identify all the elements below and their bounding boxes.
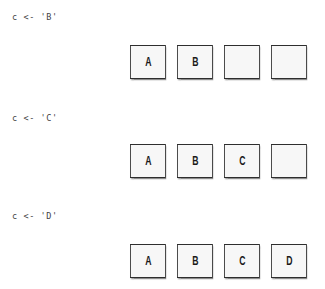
vector-cell: B [177,244,213,278]
vector-cells: A B C D [127,244,310,278]
vector-cell: A [130,45,166,79]
vector-cells: A B [127,45,310,79]
cell-value: D [286,254,292,268]
vector-cell: B [177,144,213,178]
vector-cell [271,144,307,178]
cell-value: B [192,154,198,168]
vector-cell [224,45,260,79]
cell-value: A [145,55,151,69]
cell-value: B [192,55,198,69]
cell-value: A [145,154,151,168]
vector-cell: A [130,144,166,178]
cell-value: C [239,154,245,168]
vector-cell: C [224,144,260,178]
vector-cell: D [271,244,307,278]
vector-cell: B [177,45,213,79]
code-line: c <- 'D' [12,211,58,221]
cell-value: C [239,254,245,268]
cell-value: B [192,254,198,268]
vector-cell [271,45,307,79]
code-line: c <- 'C' [12,113,58,123]
vector-cell: C [224,244,260,278]
vector-cells: A B C [127,144,310,178]
vector-cell: A [130,244,166,278]
code-line: c <- 'B' [12,12,58,22]
cell-value: A [145,254,151,268]
